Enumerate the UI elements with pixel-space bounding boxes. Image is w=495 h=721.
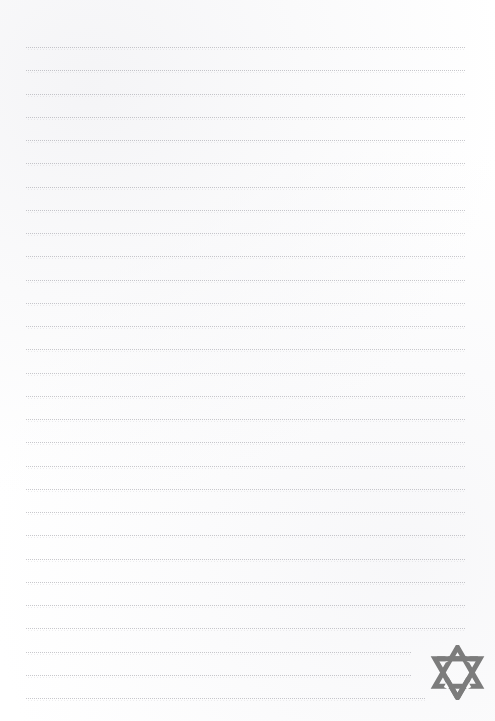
ruled-writing-area[interactable]: [0, 0, 495, 721]
rule-line[interactable]: [26, 698, 425, 699]
rule-line[interactable]: [26, 559, 466, 560]
notepaper-page: [0, 0, 495, 721]
rule-line[interactable]: [26, 187, 466, 188]
rule-line[interactable]: [26, 466, 466, 467]
rule-line[interactable]: [26, 140, 466, 141]
rule-line[interactable]: [26, 326, 466, 327]
rule-line[interactable]: [26, 233, 466, 234]
rule-line[interactable]: [26, 605, 466, 606]
rule-line[interactable]: [26, 512, 466, 513]
rule-line[interactable]: [26, 94, 466, 95]
rule-line[interactable]: [26, 535, 466, 536]
rule-line[interactable]: [26, 303, 466, 304]
rule-line[interactable]: [26, 256, 466, 257]
rule-line[interactable]: [26, 47, 466, 48]
rule-line[interactable]: [26, 582, 466, 583]
rule-line[interactable]: [26, 489, 466, 490]
rule-line[interactable]: [26, 628, 466, 629]
rule-line[interactable]: [26, 163, 466, 164]
rule-line[interactable]: [26, 675, 412, 676]
rule-line[interactable]: [26, 373, 466, 374]
rule-line[interactable]: [26, 349, 466, 350]
rule-line[interactable]: [26, 396, 466, 397]
rule-line[interactable]: [26, 210, 466, 211]
rule-line[interactable]: [26, 117, 466, 118]
rule-line[interactable]: [26, 70, 466, 71]
rule-line[interactable]: [26, 442, 466, 443]
rule-line[interactable]: [26, 419, 466, 420]
rule-line[interactable]: [26, 652, 412, 653]
rule-line[interactable]: [26, 280, 466, 281]
